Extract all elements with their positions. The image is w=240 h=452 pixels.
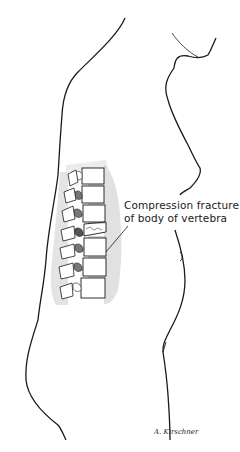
torso-illustration (0, 0, 240, 452)
annotation-line-1: Compression fracture (124, 199, 239, 212)
abdomen-outline (163, 230, 185, 440)
artist-signature: A. Kirschner (154, 428, 198, 436)
arm-outline (172, 33, 198, 57)
chest-outline (166, 38, 216, 195)
fracture-annotation: Compression fracture of body of vertebra (124, 199, 239, 224)
spine (51, 160, 122, 305)
annotation-line-2: of body of vertebra (124, 212, 239, 225)
